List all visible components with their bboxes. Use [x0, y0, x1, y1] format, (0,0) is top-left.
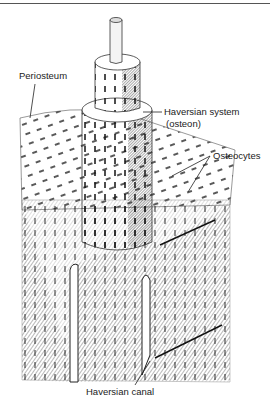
osteon-label: (osteon): [166, 118, 201, 129]
bone-illustration: [0, 0, 278, 414]
osteon-cylinders: [82, 18, 152, 251]
haversian-canal-label: Haversian canal: [86, 386, 154, 397]
periosteum-leader: [30, 84, 35, 118]
haversian-system-label: Haversian system: [164, 106, 240, 117]
osteocytes-label: Osteocytes: [213, 150, 261, 161]
periosteum-label: Periosteum: [19, 70, 67, 81]
